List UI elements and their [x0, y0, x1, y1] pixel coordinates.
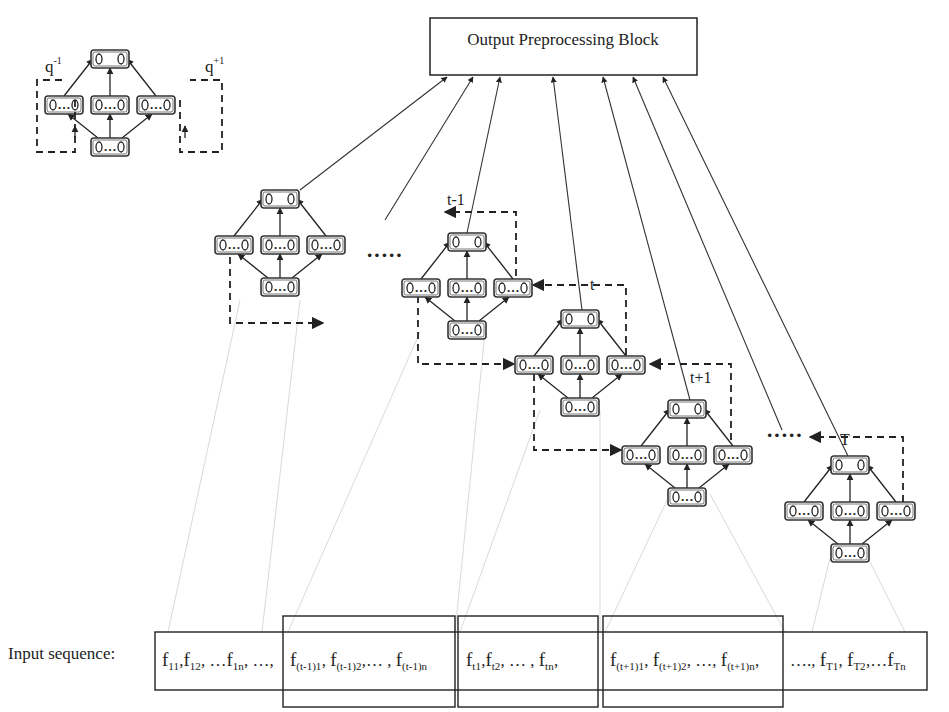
neuron-ellipsis: … [844, 545, 857, 560]
hidden-layer-node: … [91, 96, 129, 114]
output-preprocessing-block: Output Preprocessing Block [430, 18, 697, 75]
input-segment-seg-1: f11 ,f12 , …f1n , …, [162, 649, 274, 672]
output-block-label: Output Preprocessing Block [467, 30, 659, 49]
neuron-ellipsis: … [274, 279, 287, 294]
network-net-t-1: …………t-1 [402, 191, 532, 339]
unfolded-networks: ……………………t-1…………t…………t+1…………T [215, 190, 915, 562]
hidden-layer-node: … [785, 502, 823, 520]
hidden-layer-node: … [45, 96, 83, 114]
network-net-T: …………T [785, 431, 915, 562]
ellipsis-left: ····· [366, 242, 403, 267]
time-step-label: t-1 [447, 191, 465, 208]
output-layer-node [561, 310, 599, 328]
output-layer-node [448, 233, 486, 251]
time-step-label: t [590, 276, 595, 293]
neuron-ellipsis: … [415, 280, 428, 295]
input-layer-node: … [261, 278, 299, 296]
neuron-ellipsis: … [461, 280, 474, 295]
hidden-layer-node: … [561, 356, 599, 374]
output-layer-node [91, 50, 129, 68]
time-step-label: t+1 [690, 369, 711, 386]
neuron-ellipsis: … [58, 97, 71, 112]
time-step-label: T [840, 431, 850, 448]
hidden-layer-node: … [448, 279, 486, 297]
input-layer-node: … [91, 138, 129, 156]
input-layer-node: … [668, 488, 706, 506]
input-sequence-label: Input sequence: [8, 644, 115, 663]
neuron-ellipsis: … [681, 489, 694, 504]
output-layer-node [831, 456, 869, 474]
network-legend: ………… [45, 50, 175, 156]
neuron-ellipsis: … [890, 503, 903, 518]
hidden-layer-node: … [402, 279, 440, 297]
output-layer-node [261, 190, 299, 208]
hidden-layer-node: … [515, 356, 553, 374]
hidden-layer-node: … [607, 356, 645, 374]
hidden-layer-node: … [215, 236, 253, 254]
rnn-unfolded-diagram: Output Preprocessing Block [0, 0, 949, 712]
neuron-ellipsis: … [574, 399, 587, 414]
hidden-layer-node: … [622, 446, 660, 464]
network-net-1: ………… [215, 190, 345, 296]
neuron-ellipsis: … [798, 503, 811, 518]
output-layer-node [668, 400, 706, 418]
legend-network: …………q-1q+1 [37, 50, 224, 156]
hidden-layer-node: … [494, 279, 532, 297]
input-segment-seg-t: ft1 ,ft2 , … , ftn , [466, 649, 558, 672]
neuron-ellipsis: … [507, 280, 520, 295]
hidden-layer-node: … [714, 446, 752, 464]
q-plus-1-label: q+1 [205, 55, 224, 76]
input-layer-node: … [831, 544, 869, 562]
neuron-ellipsis: … [320, 237, 333, 252]
hidden-layer-node: … [831, 502, 869, 520]
hidden-layer-node: … [137, 96, 175, 114]
hidden-layer-node: … [261, 236, 299, 254]
q-minus-1-label: q-1 [45, 55, 62, 76]
input-layer-node: … [448, 321, 486, 339]
neuron-ellipsis: … [528, 357, 541, 372]
hidden-layer-node: … [877, 502, 915, 520]
hidden-layer-node: … [307, 236, 345, 254]
neuron-ellipsis: … [274, 237, 287, 252]
neuron-ellipsis: … [635, 447, 648, 462]
ellipsis-right: ····· [766, 422, 803, 447]
neuron-ellipsis: … [844, 503, 857, 518]
input-segment-seg-t+1: f(t+1)1 , f(t+1)2 , …, f(t+1)n , [610, 649, 759, 673]
neuron-ellipsis: … [727, 447, 740, 462]
neuron-ellipsis: … [228, 237, 241, 252]
neuron-ellipsis: … [574, 357, 587, 372]
neuron-ellipsis: … [104, 97, 117, 112]
neuron-ellipsis: … [104, 139, 117, 154]
input-layer-node: … [561, 398, 599, 416]
input-segment-seg-T: …., fT1 , fT2 ,…fTn [790, 649, 906, 672]
input-segment-seg-t-1: f(t-1)1 , f(t-1)2 ,… , f(t-1)n [290, 649, 428, 673]
neuron-ellipsis: … [620, 357, 633, 372]
input-sequence: Input sequence: f11 ,f12 , …f1n , …,f(t-… [8, 616, 927, 707]
neuron-ellipsis: … [681, 447, 694, 462]
input-guide-lines [168, 300, 905, 632]
neuron-ellipsis: … [150, 97, 163, 112]
neuron-ellipsis: … [461, 322, 474, 337]
hidden-layer-node: … [668, 446, 706, 464]
